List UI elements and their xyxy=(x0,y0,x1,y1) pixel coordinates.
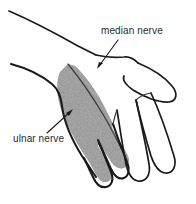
forearm-upper-edge xyxy=(9,11,96,55)
median-nerve-label: median nerve xyxy=(101,25,163,36)
thumb-outline xyxy=(123,63,175,102)
median-nerve-leader xyxy=(97,40,118,69)
ulnar-nerve-label: ulnar nerve xyxy=(13,133,64,144)
index-finger-outline xyxy=(136,93,175,173)
middle-finger-outline xyxy=(117,100,149,181)
finger-web-ring-middle xyxy=(113,110,117,124)
nerve-distribution-figure: median nerve ulnar nerve xyxy=(0,0,196,204)
hand-illustration-svg: median nerve ulnar nerve xyxy=(0,0,196,204)
